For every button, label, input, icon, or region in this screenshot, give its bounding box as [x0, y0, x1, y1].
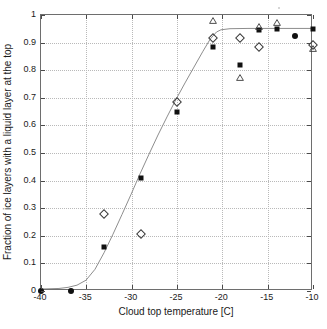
- x-tick: [41, 285, 42, 289]
- y-tick-label: 0.8: [23, 64, 36, 74]
- x-tick-label: -30: [124, 292, 137, 302]
- y-tick-label: 0.5: [23, 147, 36, 157]
- y-tick: [307, 98, 311, 99]
- data-point-filled-square: [311, 26, 316, 31]
- y-tick-label: 0: [31, 285, 36, 295]
- y-tick: [41, 263, 45, 264]
- x-tick: [86, 15, 87, 19]
- x-tick: [177, 15, 178, 19]
- y-tick: [41, 70, 45, 71]
- x-tick: [268, 15, 269, 19]
- x-tick-label: -15: [260, 292, 273, 302]
- y-tick-label: 1: [31, 9, 36, 19]
- chart-figure: -40-35-30-25-20-15-10 00.10.20.30.40.50.…: [0, 0, 327, 329]
- y-tick-label: 0.9: [23, 37, 36, 47]
- y-tick: [41, 181, 45, 182]
- y-tick-label: 0.1: [23, 257, 36, 267]
- y-tick-label: 0.3: [23, 202, 36, 212]
- x-tick: [313, 15, 314, 19]
- y-axis-title: Fraction of ice layers with a liquid lay…: [2, 44, 13, 260]
- y-tick: [307, 208, 311, 209]
- x-tick: [313, 285, 314, 289]
- x-tick: [86, 285, 87, 289]
- x-tick-label: -35: [79, 292, 92, 302]
- y-tick: [307, 236, 311, 237]
- x-tick: [177, 285, 178, 289]
- x-tick-label: -25: [169, 292, 182, 302]
- x-tick: [268, 285, 269, 289]
- x-tick: [132, 285, 133, 289]
- y-tick-label: 0.7: [23, 92, 36, 102]
- y-tick: [307, 263, 311, 264]
- y-tick-label: 0.2: [23, 230, 36, 240]
- fit-curve: [41, 15, 311, 289]
- image-artifact-speck: [278, 7, 280, 9]
- y-tick: [307, 181, 311, 182]
- y-tick-label: 0.4: [23, 175, 36, 185]
- x-tick: [222, 15, 223, 19]
- sigmoid-fit-line: [41, 28, 311, 289]
- x-tick: [132, 15, 133, 19]
- y-tick: [41, 98, 45, 99]
- y-tick: [41, 43, 45, 44]
- x-tick-label: -20: [215, 292, 228, 302]
- y-tick: [307, 125, 311, 126]
- y-tick: [41, 208, 45, 209]
- y-tick: [41, 236, 45, 237]
- x-axis-title: Cloud top temperature [C]: [118, 306, 233, 317]
- y-tick-label: 0.6: [23, 119, 36, 129]
- y-tick: [307, 43, 311, 44]
- x-tick: [222, 285, 223, 289]
- y-tick: [307, 70, 311, 71]
- x-tick-label: -10: [305, 292, 318, 302]
- y-tick: [307, 153, 311, 154]
- y-tick: [41, 153, 45, 154]
- y-tick: [41, 15, 45, 16]
- plot-area: [40, 14, 312, 290]
- y-tick: [41, 125, 45, 126]
- y-tick: [307, 15, 311, 16]
